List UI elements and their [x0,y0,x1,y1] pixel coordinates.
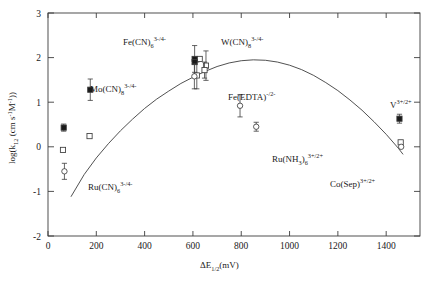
fit-curve [71,60,403,197]
y-tick-label: 3 [36,9,41,19]
x-axis-label: ΔE1/2(mV) [200,260,239,272]
x-tick-label: 800 [234,241,249,251]
data-point-filled-square [397,114,402,123]
marker-open-square [197,56,202,61]
annotation-Fe(CN)6: Fe(CN)63-/4- [123,35,166,49]
y-tick-label: -2 [33,232,41,242]
marker-open-circle [62,169,67,174]
data-point-open-square [87,133,92,138]
annotation-Ru(CN)6: Ru(CN)63-/4- [88,180,132,194]
marker-open-square [87,133,92,138]
annotation-Fe(EDTA): Fe(EDTA)-/2- [228,90,275,102]
data-point-open-circle [62,163,67,179]
data-point-open-circle [254,122,259,131]
annotation-Mo(CN)8: Mo(CN)83-/4- [90,82,136,96]
data-point-open-square [60,147,65,152]
annotation-V: V3+/2+ [390,98,412,110]
marker-open-circle [398,144,403,149]
marker-open-square [202,67,207,72]
marker-open-circle [237,103,242,108]
annotation-Co(Sep): Co(Sep)3+/2+ [330,177,376,189]
marker-filled-square [61,125,66,130]
data-point-filled-square [61,124,66,131]
data-point-open-square [197,56,202,61]
y-tick-label: 1 [36,98,41,108]
data-point-open-circle [192,64,197,89]
y-tick-label: 2 [36,53,41,63]
x-tick-label: 600 [186,241,201,251]
data-point-open-circle [398,144,403,149]
marker-open-circle [192,74,197,79]
x-tick-label: 400 [137,241,152,251]
x-tick-label: 1200 [328,241,347,251]
y-tick-label: -1 [33,187,41,197]
x-tick-label: 1000 [280,241,299,251]
marker-open-circle [254,124,259,129]
marker-filled-square [397,116,402,121]
marker-open-square [60,147,65,152]
annotation-Ru(NH3)6: Ru(NH3)63+/2+ [272,152,323,166]
annotation-W(CN)8: W(CN)83-/4- [221,35,263,49]
x-tick-label: 1400 [377,241,396,251]
x-tick-label: 0 [46,241,51,251]
y-axis-label: log(k12 (cm s-1M-1)) [6,92,18,164]
y-tick-label: 0 [36,142,41,152]
chart-figure: 0200400600800100012001400-2-10123Fe(CN)6… [0,0,434,287]
x-tick-label: 200 [89,241,104,251]
scatter-plot-canvas: 0200400600800100012001400-2-10123Fe(CN)6… [0,0,434,287]
